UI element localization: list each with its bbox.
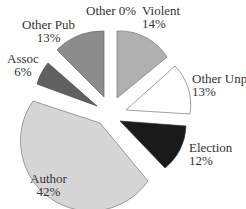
label-other: Other 0% [86, 4, 136, 17]
label-author: Author42% [30, 172, 67, 198]
label-other-pub: Other Pub13% [22, 18, 75, 44]
label-other-unp: Other Unp13% [192, 72, 246, 98]
label-election: Election12% [189, 141, 232, 167]
label-assoc: Assoc6% [7, 52, 39, 78]
pie-chart: Other 0% Violent14% Other Unp13% Electio… [0, 0, 246, 209]
label-violent: Violent14% [142, 4, 180, 30]
